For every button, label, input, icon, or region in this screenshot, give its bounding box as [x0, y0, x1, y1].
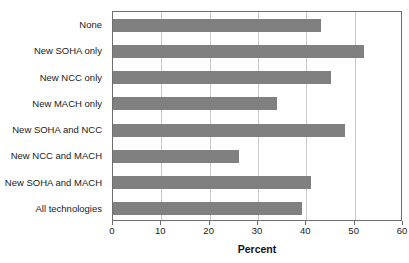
y-axis-label: None [79, 19, 102, 30]
x-tick-label: 30 [252, 225, 263, 236]
x-axis-ticks: 0102030405060 [112, 221, 402, 239]
bar-row [113, 196, 401, 222]
y-axis-label: New SOHA and MACH [5, 176, 102, 187]
bar-row [113, 38, 401, 64]
bar-row [113, 117, 401, 143]
y-axis-category-labels: NoneNew SOHA onlyNew NCC onlyNew MACH on… [0, 11, 108, 221]
bar [113, 202, 302, 215]
chart-title-cropped [0, 0, 409, 1]
bar [113, 124, 345, 137]
y-axis-label: New NCC and MACH [11, 150, 102, 161]
bar-series [113, 12, 401, 220]
plot-area [112, 11, 402, 221]
bar-row [113, 65, 401, 91]
y-axis-label: New NCC only [40, 71, 102, 82]
y-axis-label: New SOHA and NCC [12, 124, 102, 135]
x-tick-label: 10 [155, 225, 166, 236]
y-axis-label: All technologies [35, 202, 102, 213]
x-axis-title: Percent [112, 243, 402, 255]
bar [113, 97, 277, 110]
x-tick-label: 40 [300, 225, 311, 236]
bar [113, 71, 331, 84]
bar-row [113, 143, 401, 169]
bar-chart: NoneNew SOHA onlyNew NCC onlyNew MACH on… [0, 0, 409, 263]
x-tick-label: 60 [397, 225, 408, 236]
bar [113, 150, 239, 163]
x-tick-label: 50 [348, 225, 359, 236]
bar-row [113, 12, 401, 38]
bar [113, 19, 321, 32]
x-tick-label: 20 [203, 225, 214, 236]
bar-row [113, 91, 401, 117]
x-tick-label: 0 [109, 225, 114, 236]
bar [113, 45, 364, 58]
y-axis-label: New MACH only [32, 97, 102, 108]
bar [113, 176, 311, 189]
y-axis-label: New SOHA only [34, 45, 102, 56]
bar-row [113, 170, 401, 196]
